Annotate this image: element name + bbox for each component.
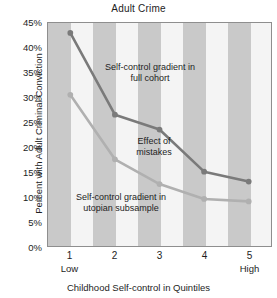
annotation-utopian-subsample: Self-control gradient in utopian subsamp… xyxy=(54,192,188,214)
annotation-effect-of-mistakes: Effect of mistakes xyxy=(112,136,196,158)
x-axis-tick-label: 4 xyxy=(202,250,208,261)
x-axis-tick-label: 5 xyxy=(247,250,253,261)
x-axis-tick-label: 3 xyxy=(157,250,163,261)
x-axis-endcap-low: Low xyxy=(61,263,78,274)
chart-container: Adult Crime Percent with Adult Criminal … xyxy=(0,0,277,298)
x-axis-tick-label: 1 xyxy=(67,250,73,261)
x-axis-tick-label: 2 xyxy=(112,250,118,261)
x-axis-endcap-high: High xyxy=(240,263,260,274)
annotation-full-cohort: Self-control gradient in full cohort xyxy=(86,62,214,84)
x-axis-title: Childhood Self-control in Quintiles xyxy=(0,282,277,293)
